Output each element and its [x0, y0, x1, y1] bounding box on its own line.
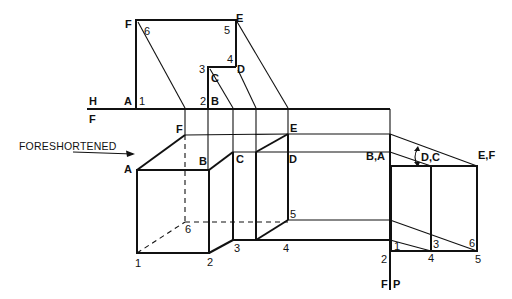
label-4-front: 4 — [283, 242, 289, 254]
label-6-profile: 6 — [469, 237, 475, 249]
label-ef-profile: E,F — [478, 149, 495, 161]
foreshortened-label: FORESHORTENED — [19, 140, 117, 152]
label-h: H — [89, 95, 97, 107]
label-b-front: B — [199, 155, 207, 167]
label-3-front: 3 — [234, 242, 240, 254]
orthographic-projection-diagram: F 6 E 5 C 3 D 4 A 1 2 B H F — [0, 0, 512, 299]
label-f-front: F — [176, 123, 183, 135]
label-d-front: D — [289, 153, 297, 165]
foreshortened-callout: FORESHORTENED — [19, 140, 135, 157]
label-e-top: E — [236, 12, 243, 24]
label-5-profile: 5 — [475, 253, 481, 265]
label-f-fp: F — [381, 278, 388, 290]
label-ba-profile: B,A — [366, 150, 385, 162]
label-5-front: 5 — [290, 208, 296, 220]
label-e-front: E — [290, 122, 297, 134]
label-1-top: 1 — [139, 95, 145, 107]
label-6-top: 6 — [144, 25, 150, 37]
label-4-top: 4 — [227, 53, 233, 65]
label-3-profile: 3 — [433, 238, 439, 250]
top-view-outline — [136, 20, 236, 108]
label-1-profile: 1 — [394, 240, 400, 252]
label-p-fp: P — [393, 278, 400, 290]
label-c-top: C — [211, 72, 219, 84]
hidden-edge-diagonal — [137, 222, 185, 253]
label-c-front: C — [236, 153, 244, 165]
projector-d — [238, 70, 256, 108]
label-2-top: 2 — [200, 95, 206, 107]
label-2-profile: 2 — [381, 253, 387, 265]
label-a-top: A — [124, 95, 132, 107]
label-dc-profile: D,C — [421, 151, 440, 163]
label-5-top: 5 — [224, 24, 230, 36]
profile-view: B,A D,C E,F 1 2 3 4 5 6 — [366, 134, 495, 265]
label-2-front: 2 — [207, 256, 213, 268]
label-6-front: 6 — [185, 223, 191, 235]
label-b-top: B — [211, 95, 219, 107]
label-f-top: F — [125, 18, 132, 30]
label-1-front: 1 — [135, 257, 141, 269]
angle-arrow-up-icon — [414, 146, 420, 151]
label-3-top: 3 — [199, 63, 205, 75]
front-face-ab — [137, 170, 209, 253]
arrow-head-icon — [126, 151, 135, 158]
label-a-front: A — [124, 163, 132, 175]
label-4-profile: 4 — [428, 252, 434, 264]
fold-line-hf: H F — [87, 95, 390, 125]
top-view: F 6 E 5 C 3 D 4 A 1 2 B — [124, 12, 288, 108]
label-f-fold: F — [89, 113, 96, 125]
front-view: F E A B C D 6 5 1 2 3 4 — [124, 122, 390, 269]
label-d-top: D — [237, 63, 245, 75]
